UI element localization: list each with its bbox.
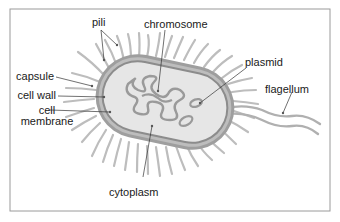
label-plasmid: plasmid (245, 57, 283, 68)
bacterial-cell-diagram: pili chromosome plasmid capsule cell wal… (0, 0, 340, 222)
label-cytoplasm: cytoplasm (109, 187, 159, 198)
label-cell-membrane: cell membrane (16, 105, 78, 127)
label-cell-wall: cell wall (17, 90, 56, 101)
label-cell-membrane-line2: membrane (16, 116, 78, 127)
label-chromosome: chromosome (144, 19, 208, 30)
label-flagellum: flagellum (265, 84, 309, 95)
label-capsule: capsule (16, 71, 54, 82)
label-pili: pili (92, 17, 105, 28)
